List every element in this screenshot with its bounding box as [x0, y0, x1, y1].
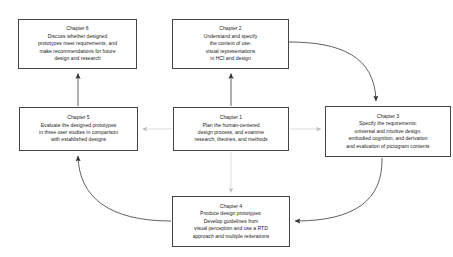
- chapter-1-line-1: Plan the human-centered: [202, 122, 259, 129]
- edge-ch2-to-ch3: [289, 42, 376, 101]
- chapter-4-line-3: visual perception and use a RTD: [194, 225, 268, 232]
- chapter-6-line-2: prototypes meet requirements, and: [38, 40, 117, 47]
- node-chapter-2[interactable]: Chapter 2 Understand and specify the con…: [172, 19, 289, 69]
- chapter-5-line-1: Evaluate the designed prototypes: [41, 122, 117, 129]
- chapter-3-line-1: Specify the requirements:: [359, 120, 417, 127]
- chapter-5-title: Chapter 5: [67, 114, 89, 121]
- chapter-4-line-4: approach and multiple reiterations: [193, 233, 270, 240]
- chapter-3-line-4: and evaluation of pictogram contents: [346, 143, 429, 150]
- chapter-3-title: Chapter 3: [377, 113, 399, 120]
- chapter-6-title: Chapter 6: [66, 25, 88, 32]
- chapter-6-line-3: make recommendations for future: [39, 48, 115, 55]
- chapter-3-line-2: universal and intuitive design,: [355, 128, 422, 135]
- edge-ch4-to-ch5: [78, 156, 171, 221]
- chapter-2-line-1: Understand and specify: [204, 33, 258, 40]
- chapter-4-line-2: Develop guidelines from: [204, 218, 259, 225]
- diagram-canvas: Chapter 6 Discuss whether designed proto…: [0, 0, 453, 257]
- chapter-2-title: Chapter 2: [219, 25, 241, 32]
- edge-ch3-to-ch4: [295, 158, 382, 221]
- chapter-3-line-3: embodied cognition, and derivation: [348, 135, 427, 142]
- chapter-2-line-4: in HCI and design: [210, 55, 251, 62]
- node-chapter-1[interactable]: Chapter 1 Plan the human-centered design…: [173, 107, 289, 151]
- chapter-1-title: Chapter 1: [220, 114, 242, 121]
- chapter-6-line-4: design and research: [54, 55, 100, 62]
- chapter-4-title: Chapter 4: [220, 203, 242, 210]
- chapter-4-line-1: Produce design prototypes:: [200, 210, 262, 217]
- chapter-2-line-3: visual representations: [206, 48, 256, 55]
- node-chapter-3[interactable]: Chapter 3 Specify the requirements: univ…: [325, 106, 451, 157]
- chapter-1-line-3: research, theories, and methods: [194, 136, 267, 143]
- node-chapter-4[interactable]: Chapter 4 Produce design prototypes: Dev…: [172, 196, 290, 247]
- chapter-5-line-3: with established designs: [51, 136, 106, 143]
- chapter-1-line-2: design process, and examine: [198, 129, 264, 136]
- node-chapter-5[interactable]: Chapter 5 Evaluate the designed prototyp…: [19, 107, 138, 151]
- chapter-5-line-2: in three user studies in comparison: [39, 129, 118, 136]
- chapter-6-line-1: Discuss whether designed: [48, 33, 107, 40]
- node-chapter-6[interactable]: Chapter 6 Discuss whether designed proto…: [18, 19, 137, 69]
- chapter-2-line-2: the context of use:: [210, 40, 252, 47]
